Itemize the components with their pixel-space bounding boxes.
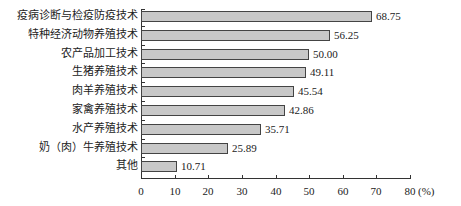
x-tick-label: 60 <box>338 185 349 197</box>
x-tick-label: 40 <box>271 185 282 197</box>
x-tick <box>309 175 310 179</box>
x-tick <box>376 175 377 179</box>
y-tick <box>141 101 145 102</box>
x-tick-label: 30 <box>237 185 248 197</box>
value-label: 25.89 <box>232 142 257 154</box>
value-label: 50.00 <box>313 48 338 60</box>
x-tick <box>276 175 277 179</box>
value-label: 35.71 <box>265 123 290 135</box>
category-label: 疫病诊断与检疫防疫技术 <box>17 10 138 22</box>
value-label: 68.75 <box>376 10 401 22</box>
category-label: 生猪养殖技术 <box>72 66 138 78</box>
y-tick <box>141 120 145 121</box>
category-label: 农产品加工技术 <box>61 48 138 60</box>
y-tick <box>141 82 145 83</box>
bar <box>141 86 294 97</box>
value-label: 45.54 <box>298 85 323 97</box>
value-label: 56.25 <box>334 29 359 41</box>
y-tick <box>141 157 145 158</box>
bar <box>141 30 330 41</box>
x-tick-label: 80 <box>405 185 416 197</box>
x-tick <box>343 175 344 179</box>
y-axis-top-tick <box>141 9 145 10</box>
value-label: 10.71 <box>181 160 206 172</box>
y-tick <box>141 63 145 64</box>
category-label: 奶（肉）牛养殖技术 <box>39 142 138 154</box>
bar <box>141 161 177 172</box>
x-tick-label: 50 <box>304 185 315 197</box>
bar <box>141 49 309 60</box>
y-tick <box>141 26 145 27</box>
y-tick <box>141 45 145 46</box>
value-label: 42.86 <box>289 104 314 116</box>
x-tick-label: 20 <box>203 185 214 197</box>
bar <box>141 105 285 116</box>
x-tick <box>175 175 176 179</box>
bar <box>141 124 261 135</box>
x-tick-label: 0 <box>138 185 144 197</box>
bar <box>141 11 372 22</box>
x-tick-label: 70 <box>371 185 382 197</box>
x-tick <box>410 175 411 179</box>
category-label: 家禽养殖技术 <box>72 104 138 116</box>
x-tick-label: 10 <box>170 185 181 197</box>
x-axis-unit: (%) <box>418 185 435 197</box>
value-label: 49.11 <box>310 66 334 78</box>
x-tick <box>208 175 209 179</box>
category-label: 肉羊养殖技术 <box>72 85 138 97</box>
bar <box>141 143 228 154</box>
x-tick <box>242 175 243 179</box>
category-label: 其他 <box>116 160 138 172</box>
y-tick <box>141 139 145 140</box>
category-label: 水产养殖技术 <box>72 123 138 135</box>
bar <box>141 67 306 78</box>
horizontal-bar-chart: (%) 疫病诊断与检疫防疫技术68.75特种经济动物养殖技术56.25农产品加工… <box>0 0 461 206</box>
category-label: 特种经济动物养殖技术 <box>28 29 138 41</box>
